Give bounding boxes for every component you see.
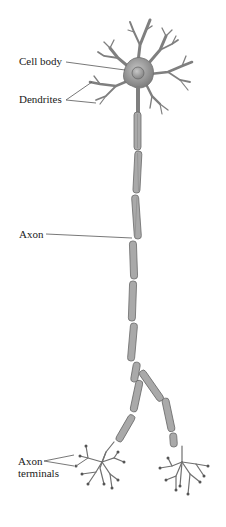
axon bbox=[127, 112, 142, 383]
axon-branch-left bbox=[115, 380, 143, 443]
leader-lines bbox=[44, 62, 132, 466]
leader-terminals-1 bbox=[44, 455, 74, 461]
leader-axon bbox=[46, 234, 132, 238]
axon-branch-right bbox=[138, 369, 177, 447]
neuron-diagram bbox=[0, 0, 226, 527]
axon-hillock bbox=[136, 86, 140, 113]
label-axon: Axon bbox=[19, 228, 43, 240]
nucleus bbox=[132, 67, 144, 79]
label-axon-terminals-line1: Axon bbox=[18, 455, 42, 467]
leader-cell-body bbox=[66, 62, 125, 70]
label-axon-terminals-line2: terminals bbox=[18, 467, 59, 479]
leader-terminals-2 bbox=[44, 461, 74, 466]
leader-dendrites-1 bbox=[66, 82, 92, 100]
leader-dendrites-2 bbox=[66, 100, 96, 103]
label-cell-body: Cell body bbox=[19, 55, 62, 67]
cell-body bbox=[123, 58, 153, 88]
axon-terminals-right bbox=[160, 446, 208, 494]
label-dendrites: Dendrites bbox=[19, 93, 62, 105]
